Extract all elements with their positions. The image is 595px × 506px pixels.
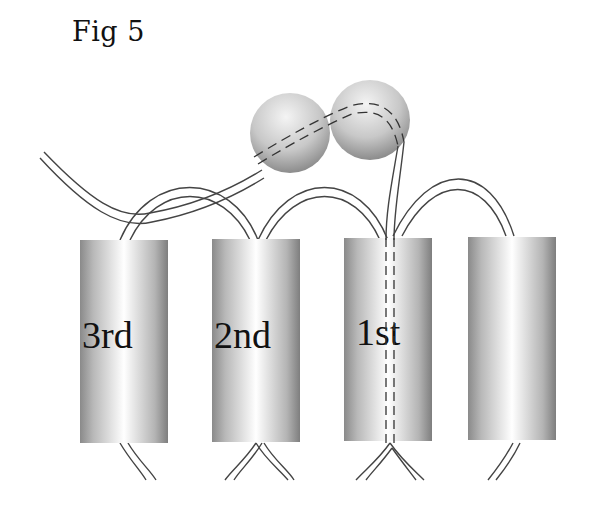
helix-1st: 1st [344, 238, 432, 441]
intracellular-loops [120, 443, 520, 480]
helix-label: 1st [356, 311, 401, 353]
helix-2nd: 2nd [212, 239, 300, 442]
descending-strand [386, 142, 404, 240]
helix-label: 3rd [82, 314, 133, 356]
transmembrane-diagram: 3rd 2nd 1st [0, 0, 595, 506]
helix-label: 2nd [214, 314, 271, 356]
extracellular-loops [120, 179, 514, 240]
helix-4th [468, 237, 556, 440]
helix-3rd: 3rd [80, 240, 168, 443]
